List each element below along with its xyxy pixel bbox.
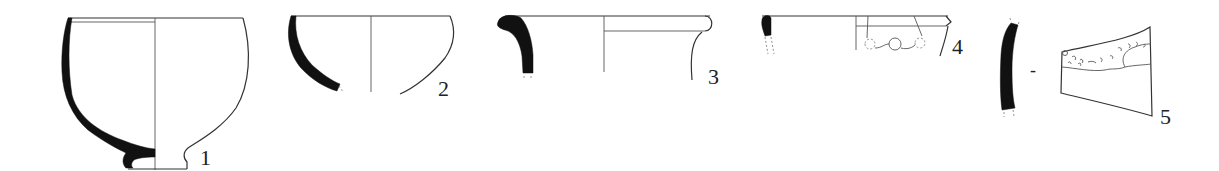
figure-number-1: 1 bbox=[200, 145, 211, 170]
vessel-4: 4 bbox=[762, 16, 963, 59]
vessel-1: 1 bbox=[62, 18, 249, 170]
separator-dash: - bbox=[1030, 60, 1036, 80]
pottery-plate: 1 2 3 bbox=[0, 0, 1219, 171]
figure-number-2: 2 bbox=[438, 76, 449, 101]
figure-number-3: 3 bbox=[708, 64, 719, 89]
figure-number-4: 4 bbox=[952, 34, 963, 59]
figure-number-5: 5 bbox=[1160, 104, 1171, 129]
sherd-5: - 5 bbox=[1000, 18, 1171, 129]
vessel-3: 3 bbox=[497, 15, 719, 89]
vessel-2: 2 bbox=[288, 16, 453, 101]
